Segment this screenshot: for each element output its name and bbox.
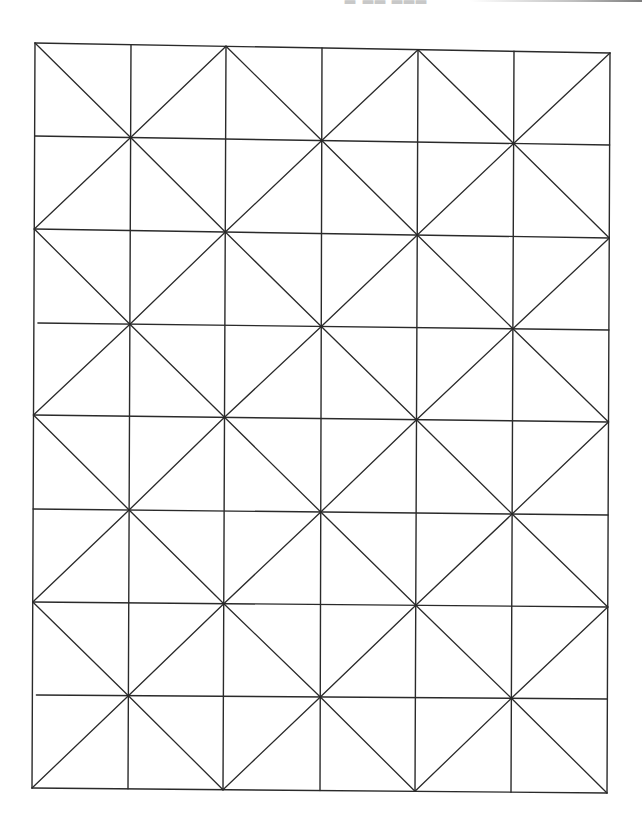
diagonal-line-up [417, 329, 513, 420]
vertical-grid-lines [32, 43, 610, 793]
diagonal-line-up [131, 46, 226, 137]
diagonal-line-up [511, 607, 607, 698]
diagonal-line-down [418, 50, 514, 144]
diagonal-line-down [225, 417, 321, 512]
diagonal-line-up [514, 53, 610, 144]
diagonal-line-down [34, 415, 130, 510]
diagonal-line-down [128, 696, 223, 790]
diagonal-line-up [321, 420, 417, 512]
diagonal-line-up [415, 698, 511, 791]
diagonal-line-down [417, 235, 513, 329]
diagonal-line-up [322, 50, 418, 141]
diagonal-line-up [321, 235, 417, 327]
diagonal-line-up [417, 144, 513, 236]
diagonal-line-up [129, 417, 224, 510]
grid-diagram [0, 0, 642, 830]
diagonal-line-down [129, 510, 224, 604]
diagonal-line-up [225, 327, 322, 418]
diagonal-line-down [321, 327, 416, 420]
vertical-grid-line [511, 51, 514, 792]
diagonal-line-up [34, 324, 130, 415]
diagonal-line-down [224, 604, 320, 697]
diagonal-line-down [225, 232, 321, 327]
diagonal-line-up [223, 697, 320, 790]
diagonal-line-down [33, 602, 129, 696]
diagonal-line-down [320, 697, 415, 791]
diagonal-line-down [34, 229, 130, 324]
diagonal-line-down [321, 512, 416, 605]
diagonal-line-up [225, 141, 321, 233]
diagonal-line-down [513, 329, 609, 422]
diagonal-line-up [32, 696, 128, 788]
diagonal-line-down [322, 141, 418, 236]
diagonal-line-down [226, 46, 322, 140]
diagonal-line-up [416, 514, 512, 605]
diagonal-line-up [320, 605, 416, 697]
diagonal-line-up [34, 138, 130, 230]
diagonal-line-down [512, 514, 608, 607]
diagonal-line-down [417, 420, 513, 514]
diagonal-line-down [416, 605, 512, 698]
vertical-grid-line [320, 48, 322, 791]
diagonal-line-down [511, 698, 607, 793]
diagonal-line-up [224, 512, 321, 604]
diagonal-line-up [513, 238, 609, 329]
diagonal-line-down [35, 43, 131, 138]
diagonal-line-down [514, 144, 610, 239]
scanned-page: ▃ ▃▃ ▃▃▃ [0, 0, 642, 830]
diagonal-line-down [131, 138, 226, 233]
diagonal-line-down [130, 324, 225, 417]
diagonal-line-up [128, 604, 223, 696]
diagonal-line-up [33, 510, 129, 602]
diagonal-line-up [512, 422, 608, 514]
diagonal-line-up [130, 232, 225, 324]
